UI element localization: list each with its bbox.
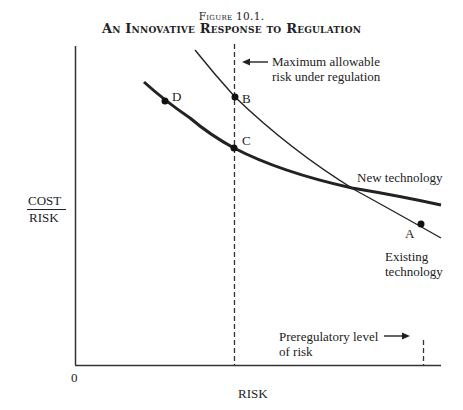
- point-c: [231, 145, 238, 152]
- origin-label: 0: [71, 370, 78, 385]
- diagram-canvas: B C D A Maximum allowable risk under reg…: [0, 0, 463, 410]
- label-b: B: [242, 91, 251, 106]
- new-technology-label: New technology: [357, 170, 443, 185]
- existing-technology-label-1: Existing: [385, 249, 429, 264]
- prereg-arrow-icon: [384, 333, 410, 340]
- x-axis-label: RISK: [238, 386, 268, 401]
- point-d: [162, 98, 169, 105]
- label-d: D: [172, 89, 181, 104]
- prereg-text-2: of risk: [279, 344, 313, 359]
- existing-technology-label-2: technology: [385, 264, 443, 279]
- y-label-numerator: COST: [28, 193, 61, 208]
- prereg-text-1: Preregulatory level: [279, 329, 379, 344]
- point-a: [418, 221, 425, 228]
- max-risk-text-1: Maximum allowable: [272, 54, 380, 69]
- label-c: C: [242, 133, 251, 148]
- y-label-denominator: RISK: [29, 210, 59, 225]
- max-risk-arrow-icon: [242, 59, 268, 66]
- max-risk-text-2: risk under regulation: [272, 69, 381, 84]
- label-a: A: [405, 226, 415, 241]
- point-b: [232, 94, 239, 101]
- new-technology-curve: [144, 82, 441, 205]
